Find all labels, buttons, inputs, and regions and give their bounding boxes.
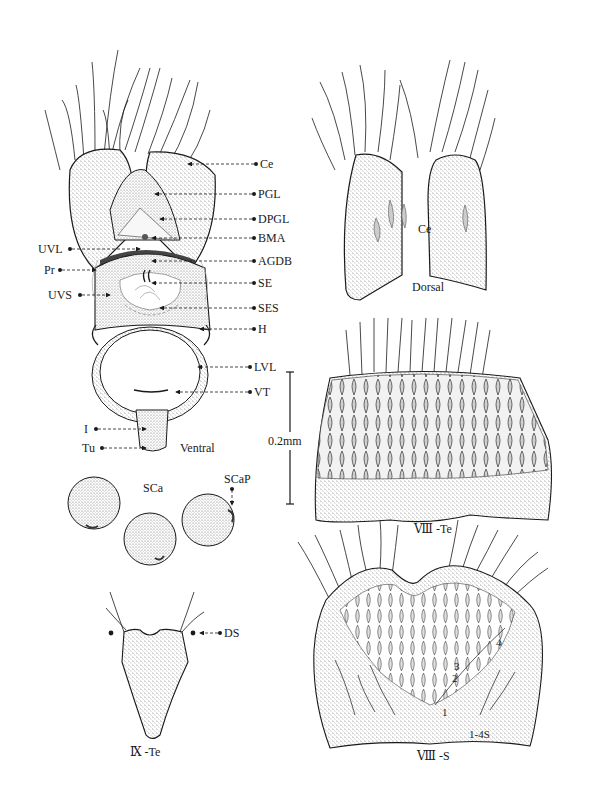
callout-se: SE — [258, 277, 272, 289]
callout-pr: Pr — [44, 264, 55, 276]
scap-callout — [230, 487, 234, 505]
callout-ce: Ce — [260, 158, 273, 170]
scap-callout-label: SCaP — [224, 473, 251, 485]
callout-lvl: LVL — [254, 361, 276, 373]
dorsal-cercus-left — [344, 154, 402, 300]
dorsal-cercus-right — [428, 155, 486, 290]
sternite-8-drawing — [298, 520, 548, 748]
callout-agdb: AGDB — [258, 255, 292, 267]
tergite-8-label: Ⅷ -Te — [414, 523, 452, 535]
seta-1-4s-label: 1-4S — [469, 728, 490, 740]
dorsal-ce-label: Ce — [418, 223, 431, 235]
spermathecae-label: SCa — [143, 482, 163, 494]
callout-ses: SES — [258, 302, 279, 314]
figure-canvas — [0, 0, 591, 798]
tergite-9-drawing — [106, 592, 222, 739]
tergite-8-drawing — [315, 318, 551, 522]
callout-i: I — [84, 423, 88, 435]
seta-number-4: 4 — [496, 636, 502, 648]
seta-number-3: 3 — [454, 660, 460, 672]
callout-bma: BMA — [258, 232, 285, 244]
sternite-8-label: Ⅷ -S — [417, 750, 450, 762]
callout-vt: VT — [254, 386, 270, 398]
callout-tu: Tu — [82, 442, 95, 454]
ventral-view-label: Ventral — [180, 442, 215, 454]
callout-h: H — [258, 323, 267, 335]
callout-pgl: PGL — [258, 188, 281, 200]
tergite-9-label: Ⅸ -Te — [130, 746, 160, 758]
callout-uvl: UVL — [38, 243, 63, 255]
scale-bar-label: 0.2mm — [268, 435, 302, 447]
callout-dpgl: DPGL — [258, 213, 289, 225]
dorsal-cerci-drawing — [312, 60, 495, 300]
seta-number-1: 1 — [442, 706, 448, 718]
callout-uvs: UVS — [48, 289, 72, 301]
dorsal-view-label: Dorsal — [412, 281, 444, 293]
seta-number-2: 2 — [452, 672, 458, 684]
ds-callout-label: DS — [224, 627, 239, 639]
